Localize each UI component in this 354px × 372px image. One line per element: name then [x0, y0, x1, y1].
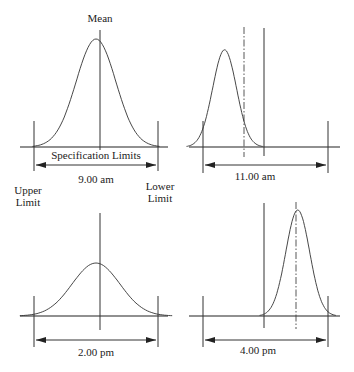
panel-11am: 11.00 am — [187, 27, 341, 182]
panel-9am: Mean Specification Limits 9.00 am Upper … — [14, 12, 174, 208]
spec-limits-label: Specification Limits — [51, 149, 141, 161]
lower-limit-label: Lower — [146, 180, 175, 192]
time-label: 9.00 am — [78, 173, 114, 185]
distribution-curve — [20, 263, 172, 316]
lower-limit-label-2: Limit — [148, 192, 172, 204]
upper-limit-label-2: Limit — [16, 196, 40, 208]
distribution-curve — [33, 39, 160, 146]
upper-limit-label: Upper — [14, 184, 42, 196]
time-label: 4.00 pm — [240, 344, 277, 356]
time-label: 2.00 pm — [78, 346, 115, 358]
time-label: 11.00 am — [235, 170, 276, 182]
distribution-curve — [187, 50, 263, 147]
panel-2pm: 2.00 pm — [20, 213, 172, 358]
mean-label: Mean — [87, 12, 113, 24]
distribution-curve — [260, 210, 336, 315]
process-capability-diagram: Mean Specification Limits 9.00 am Upper … — [0, 0, 354, 372]
panel-4pm: 4.00 pm — [189, 202, 340, 356]
